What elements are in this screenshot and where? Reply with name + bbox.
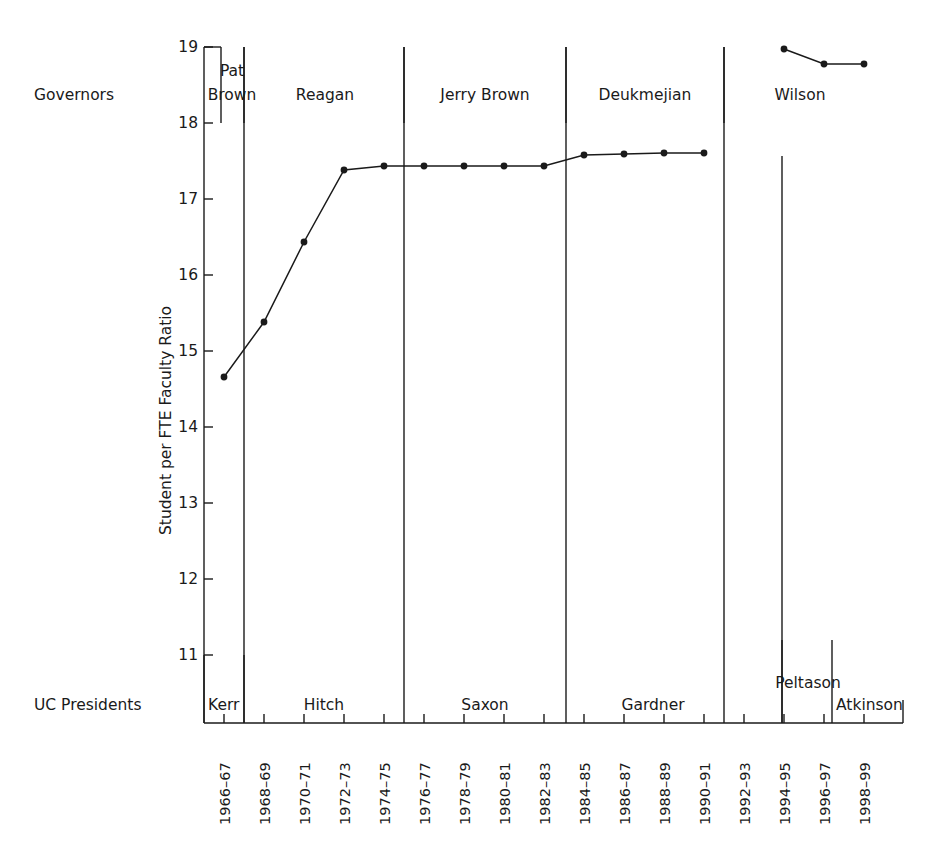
x-tick-label-1978-79: 1978–79 bbox=[458, 762, 473, 825]
y-tick-label-16: 16 bbox=[160, 268, 198, 284]
x-tick-label-1998-99: 1998–99 bbox=[858, 762, 873, 825]
y-tick-label-19: 19 bbox=[160, 40, 198, 56]
x-tick-label-1966-67: 1966–67 bbox=[218, 762, 233, 825]
x-tick-label-1990-91: 1990–91 bbox=[698, 762, 713, 825]
governor-band-pat-brown-line2: Brown bbox=[208, 88, 257, 104]
data-point bbox=[701, 150, 708, 157]
governor-band-wilson: Wilson bbox=[775, 88, 826, 104]
data-point bbox=[661, 150, 668, 157]
x-tick-label-1976-77: 1976–77 bbox=[418, 762, 433, 825]
president-band-hitch: Hitch bbox=[304, 698, 344, 714]
data-point bbox=[301, 239, 308, 246]
governor-band-reagan: Reagan bbox=[296, 88, 354, 104]
x-tick-label-1974-75: 1974–75 bbox=[378, 762, 393, 825]
x-tick-label-1970-71: 1970–71 bbox=[298, 762, 313, 825]
x-tick-label-1980-81: 1980–81 bbox=[498, 762, 513, 825]
data-point bbox=[461, 163, 468, 170]
data-point bbox=[621, 151, 628, 158]
x-tick-label-1986-87: 1986–87 bbox=[618, 762, 633, 825]
president-band-gardner: Gardner bbox=[621, 698, 684, 714]
president-band-peltason: Peltason bbox=[775, 676, 841, 692]
x-tick-label-1984-85: 1984–85 bbox=[578, 762, 593, 825]
governor-band-jerry-brown: Jerry Brown bbox=[440, 88, 529, 104]
y-tick-marks bbox=[204, 47, 213, 655]
governor-plot-separators bbox=[244, 47, 724, 723]
x-tick-label-1992-93: 1992–93 bbox=[738, 762, 753, 825]
y-tick-label-18: 18 bbox=[160, 116, 198, 132]
data-point bbox=[421, 163, 428, 170]
x-tick-marks bbox=[224, 714, 864, 723]
data-point bbox=[381, 163, 388, 170]
x-tick-label-1994-95: 1994–95 bbox=[778, 762, 793, 825]
chart-figure: Student per FTE Faculty Ratio 19 18 17 1… bbox=[0, 0, 951, 849]
x-tick-label-1996-97: 1996–97 bbox=[818, 762, 833, 825]
president-band-saxon: Saxon bbox=[461, 698, 508, 714]
y-tick-label-17: 17 bbox=[160, 192, 198, 208]
y-tick-label-12: 12 bbox=[160, 572, 198, 588]
governor-band-deukmejian: Deukmejian bbox=[599, 88, 692, 104]
data-point bbox=[581, 152, 588, 159]
y-tick-label-15: 15 bbox=[160, 344, 198, 360]
governor-dividers bbox=[204, 47, 724, 123]
chart-canvas bbox=[0, 0, 951, 849]
data-point bbox=[781, 46, 788, 53]
presidents-row-label: UC Presidents bbox=[34, 698, 141, 714]
president-band-atkinson: Atkinson bbox=[836, 698, 903, 714]
governor-band-pat-brown-line1: Pat bbox=[220, 64, 244, 80]
data-point bbox=[821, 61, 828, 68]
y-tick-label-14: 14 bbox=[160, 420, 198, 436]
data-point bbox=[341, 167, 348, 174]
x-tick-label-1982-83: 1982–83 bbox=[538, 762, 553, 825]
x-tick-label-1968-69: 1968–69 bbox=[258, 762, 273, 825]
data-point bbox=[261, 319, 268, 326]
governors-row-label: Governors bbox=[34, 88, 114, 104]
y-tick-label-13: 13 bbox=[160, 496, 198, 512]
data-line-segment-1 bbox=[224, 153, 704, 377]
x-tick-label-1972-73: 1972–73 bbox=[338, 762, 353, 825]
data-point bbox=[541, 163, 548, 170]
y-tick-label-11: 11 bbox=[160, 648, 198, 664]
data-point bbox=[221, 374, 228, 381]
x-tick-label-1988-89: 1988–89 bbox=[658, 762, 673, 825]
data-point bbox=[861, 61, 868, 68]
data-point bbox=[501, 163, 508, 170]
president-band-kerr: Kerr bbox=[208, 698, 239, 714]
